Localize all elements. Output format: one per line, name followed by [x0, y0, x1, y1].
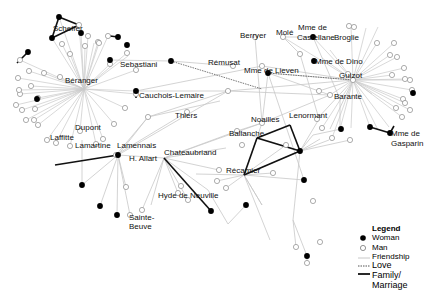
man-node — [316, 88, 321, 93]
man-node — [59, 41, 64, 46]
woman-node — [97, 203, 103, 209]
node-label: Gasparin — [391, 139, 423, 148]
friendship-edge — [244, 175, 262, 205]
man-node — [178, 183, 183, 188]
woman-node — [115, 152, 121, 158]
man-node — [41, 70, 46, 75]
man-node — [327, 92, 332, 97]
man-node — [216, 167, 221, 172]
man-node — [19, 107, 24, 112]
man-node — [31, 117, 36, 122]
friendship-edge — [26, 89, 84, 120]
node-label: Mme de — [298, 23, 327, 32]
man-node — [304, 260, 309, 265]
man-node — [23, 117, 28, 122]
man-node — [15, 75, 20, 80]
man-node — [26, 68, 31, 73]
man-node — [123, 184, 128, 189]
man-node — [293, 244, 298, 249]
man-node — [402, 76, 407, 81]
man-node — [319, 125, 324, 130]
man-node — [122, 105, 127, 110]
node-label: H. Allart — [129, 154, 157, 163]
legend-family-label: Family/ — [372, 270, 401, 280]
woman-node — [410, 90, 416, 96]
woman-node-icon — [358, 233, 370, 243]
node-label: Ballanche — [229, 129, 264, 138]
legend-family-2: Marriage — [358, 280, 400, 290]
man-node — [28, 83, 33, 88]
node-label: Lenormant — [289, 111, 327, 120]
woman-node — [34, 96, 40, 102]
man-node-icon — [358, 243, 370, 253]
friendship-edge — [118, 155, 126, 187]
node-label: Rémusat — [208, 58, 240, 67]
woman-nodes — [25, 14, 416, 259]
node-label: Sainte- — [129, 213, 154, 222]
man-node — [351, 24, 356, 29]
friendship-edges — [82, 37, 353, 263]
friendship-edge — [353, 80, 378, 130]
woman-node — [304, 253, 310, 259]
node-label: Thiers — [175, 111, 197, 120]
legend-title: Legend — [372, 224, 400, 233]
man-node — [67, 143, 72, 148]
man-node — [347, 137, 352, 142]
woman-node — [301, 177, 307, 183]
friendship-line-icon — [358, 253, 372, 261]
legend-woman-label: Woman — [372, 233, 399, 243]
node-label: Guizot — [339, 71, 362, 80]
friendship-edge — [322, 80, 353, 128]
woman-node — [338, 126, 344, 132]
friendship-edge — [244, 175, 270, 240]
man-node — [317, 239, 322, 244]
network-diagram: SchefferSebastianiBérangerCauchois-Lemai… — [0, 0, 431, 299]
man-node — [44, 137, 49, 142]
node-label: Mme de Dino — [315, 57, 363, 66]
friendship-edge — [313, 129, 341, 135]
man-node — [393, 105, 398, 110]
legend-love: Love — [358, 261, 400, 270]
friendship-edge — [228, 91, 330, 95]
woman-node — [114, 212, 120, 218]
woman-node — [297, 148, 303, 154]
man-node — [67, 51, 72, 56]
man-node — [407, 107, 412, 112]
family-line-icon — [358, 270, 372, 280]
legend-family-label-2: Marriage — [372, 280, 408, 290]
man-node — [389, 72, 394, 77]
legend-family: Family/ — [358, 270, 400, 280]
man-node — [270, 170, 275, 175]
friendship-edge — [117, 155, 118, 215]
man-node — [391, 40, 396, 45]
man-node — [401, 65, 406, 70]
node-label: Barante — [334, 92, 362, 101]
man-node — [85, 33, 90, 38]
man-node — [310, 198, 315, 203]
node-label: Cauchois-Lemaire — [139, 91, 204, 100]
man-node — [223, 185, 228, 190]
legend-love-label: Love — [372, 261, 392, 270]
family-edge — [164, 158, 211, 211]
friendship-edge — [293, 151, 300, 220]
node-label: Sebastiani — [120, 60, 157, 69]
man-node — [407, 77, 412, 82]
man-node — [399, 114, 404, 119]
node-label: Laffitte — [50, 133, 74, 142]
node-label: Molé — [276, 28, 293, 37]
woman-node — [124, 42, 130, 48]
node-label: Castellane — [297, 33, 335, 42]
node-label: Lamennais — [117, 141, 156, 150]
man-node — [105, 33, 110, 38]
woman-node — [367, 124, 373, 130]
node-label: Dupont — [75, 123, 101, 132]
man-node — [17, 57, 22, 62]
man-node — [124, 50, 129, 55]
man-node — [374, 40, 379, 45]
man-node — [283, 142, 288, 147]
node-label: Beuve — [129, 222, 152, 231]
man-node — [214, 178, 219, 183]
node-label: Récamier — [226, 166, 260, 175]
man-node — [225, 88, 230, 93]
woman-node — [107, 57, 113, 63]
